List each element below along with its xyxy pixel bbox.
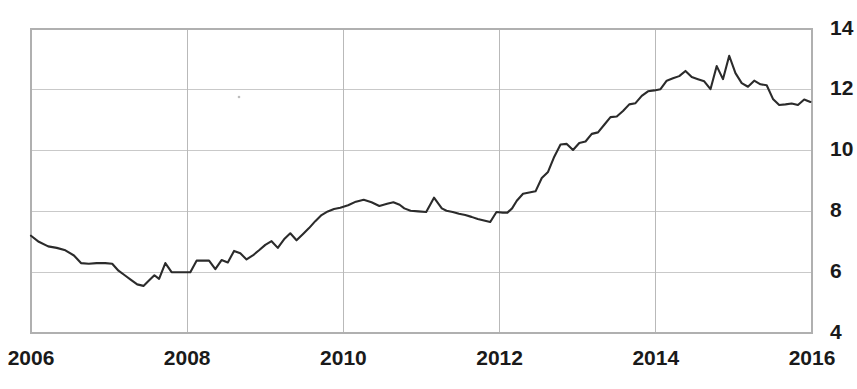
paper-speck	[238, 96, 241, 99]
y-tick-label-12: 12	[830, 76, 853, 99]
y-tick-label-4: 4	[830, 320, 842, 343]
x-tick-label-2008: 2008	[164, 346, 211, 369]
x-tick-label-2012: 2012	[476, 346, 523, 369]
x-tick-label-2014: 2014	[632, 346, 679, 369]
x-tick-label-2010: 2010	[320, 346, 367, 369]
y-tick-label-10: 10	[830, 137, 853, 160]
x-tick-label-2016: 2016	[789, 346, 836, 369]
y-tick-label-6: 6	[830, 259, 842, 282]
chart-container: 468101214 200620082010201220142016	[0, 0, 857, 389]
y-tick-label-14: 14	[830, 16, 854, 39]
line-chart: 468101214 200620082010201220142016	[0, 0, 857, 389]
x-tick-label-2006: 2006	[8, 346, 55, 369]
y-tick-label-8: 8	[830, 198, 842, 221]
